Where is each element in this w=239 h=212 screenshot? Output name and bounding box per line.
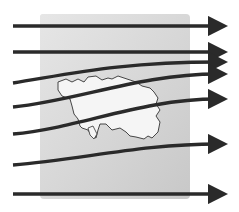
airflow-diagram (0, 0, 239, 212)
